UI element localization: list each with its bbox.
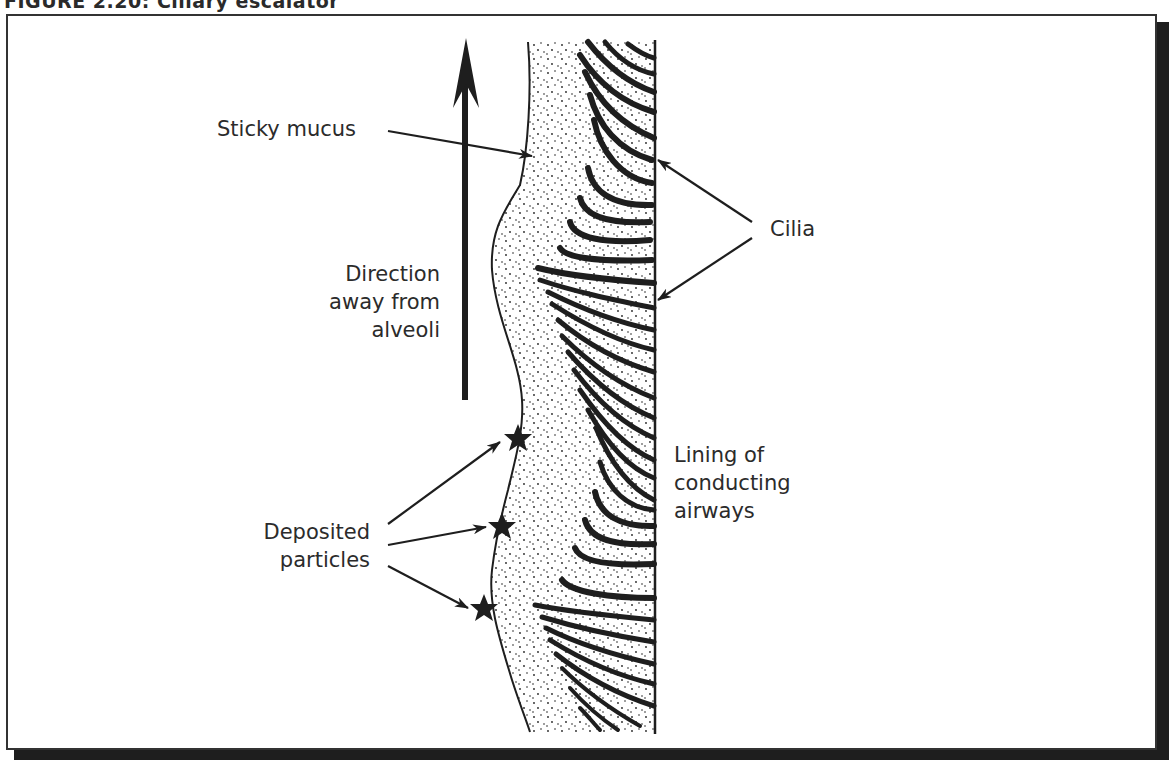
label-lining-line2: conducting (674, 469, 791, 497)
particle-pointer-1 (388, 442, 500, 524)
label-deposited-line1: Deposited (230, 518, 370, 546)
label-direction: Direction away from alveoli (300, 260, 440, 344)
cilia-pointer-lower (658, 238, 752, 300)
label-lining: Lining of conducting airways (674, 441, 791, 525)
label-lining-line1: Lining of (674, 441, 791, 469)
label-direction-line3: alveoli (300, 316, 440, 344)
cilia-pointer-upper (658, 160, 752, 222)
label-direction-line2: away from (300, 288, 440, 316)
direction-up-arrow (453, 38, 479, 400)
label-sticky-mucus: Sticky mucus (217, 115, 356, 143)
particle-pointer-3 (388, 566, 468, 608)
label-lining-line3: airways (674, 497, 791, 525)
label-direction-line1: Direction (300, 260, 440, 288)
ciliary-escalator-diagram (0, 0, 1172, 760)
sticky-mucus-pointer (388, 131, 532, 156)
label-deposited-particles: Deposited particles (230, 518, 370, 574)
label-cilia: Cilia (770, 215, 815, 243)
label-deposited-line2: particles (230, 546, 370, 574)
particle-pointer-2 (388, 527, 486, 545)
